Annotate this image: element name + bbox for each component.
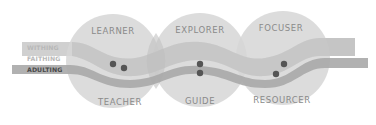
dot: [121, 65, 127, 71]
dot: [197, 61, 203, 67]
dot: [197, 70, 203, 76]
band-label-faithing: FAITHING: [27, 55, 60, 62]
label-teacher: TEACHER: [97, 97, 142, 107]
band-label-adulting: ADULTING: [27, 66, 62, 73]
label-explorer: EXPLORER: [175, 25, 224, 35]
label-focuser: FOCUSER: [259, 23, 304, 33]
label-learner: LEARNER: [91, 26, 135, 36]
role-diagram: LEARNER TEACHER EXPLORER GUIDE FOCUSER R…: [0, 0, 376, 125]
label-guide: GUIDE: [185, 96, 215, 106]
dot: [273, 71, 279, 77]
band-label-withing: WITHING: [27, 44, 59, 51]
dot: [110, 61, 116, 67]
label-resourcer: RESOURCER: [253, 95, 311, 105]
dot: [281, 61, 287, 67]
